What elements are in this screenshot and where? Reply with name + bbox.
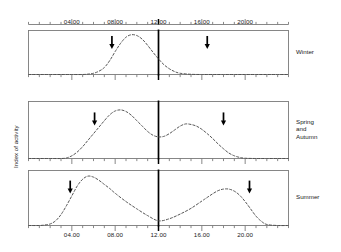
panel-label-line: Winter <box>296 48 314 56</box>
sunset-arrow <box>223 112 225 121</box>
panel-label-summer: Summer <box>296 193 319 201</box>
sunset-arrow <box>206 36 208 45</box>
panel-winter <box>29 30 289 76</box>
sunset-arrow-head <box>221 120 226 125</box>
x-axis-tick-label-top: 20.00 <box>237 18 253 25</box>
x-axis-tick-label-top: 12.00 <box>151 18 167 25</box>
sunrise-arrow-head <box>68 189 73 194</box>
panel-label-line: Autumn <box>296 133 317 141</box>
sunrise-arrow <box>69 181 71 190</box>
panel-label-line: Spring <box>296 118 317 126</box>
x-axis-tick-label-top: 08.00 <box>107 18 123 25</box>
panel-label-winter: Winter <box>296 48 314 56</box>
x-axis-tick-label-top: 16.00 <box>194 18 210 25</box>
sunset-arrow <box>249 181 251 190</box>
panel-label-line: and <box>296 125 317 133</box>
chart-canvas <box>0 0 341 252</box>
x-axis-tick-label-top: 04.00 <box>64 18 80 25</box>
activity-index-figure: Index of activity 04.0008.0012.0016.0020… <box>0 0 341 252</box>
panel-label-spring-and-autumn: SpringandAutumn <box>296 118 317 141</box>
x-axis-tick-label-bottom: 20.00 <box>237 231 253 238</box>
panel-tick-row <box>29 159 289 165</box>
sunrise-arrow-head <box>92 120 97 125</box>
sunrise-arrow <box>94 112 96 121</box>
sunset-arrow-head <box>247 189 252 194</box>
sunrise-arrow <box>111 36 113 45</box>
panel-label-line: Summer <box>296 193 319 201</box>
panel-summer <box>29 170 289 227</box>
panel-spring-and-autumn <box>29 101 289 160</box>
x-axis-tick-label-bottom: 16.00 <box>194 231 210 238</box>
sunset-arrow-head <box>205 44 210 49</box>
x-axis-tick-label-bottom: 04.00 <box>64 231 80 238</box>
panel-tick-row <box>29 75 289 81</box>
sunrise-arrow-head <box>109 44 114 49</box>
x-axis-tick-label-bottom: 08.00 <box>107 231 123 238</box>
x-axis-tick-label-bottom: 12.00 <box>151 231 167 238</box>
